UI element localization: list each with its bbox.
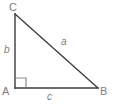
vertex-label-a: A [2, 86, 9, 97]
right-triangle-figure: C A B b a c [0, 0, 115, 107]
side-label-a: a [61, 37, 67, 47]
right-angle-marker [16, 78, 26, 87]
side-a-line [15, 14, 98, 88]
side-label-b: b [4, 45, 10, 55]
vertex-label-b: B [100, 86, 107, 97]
triangle-drawing [0, 0, 115, 107]
vertex-label-c: C [9, 2, 17, 13]
side-label-c: c [47, 92, 52, 102]
